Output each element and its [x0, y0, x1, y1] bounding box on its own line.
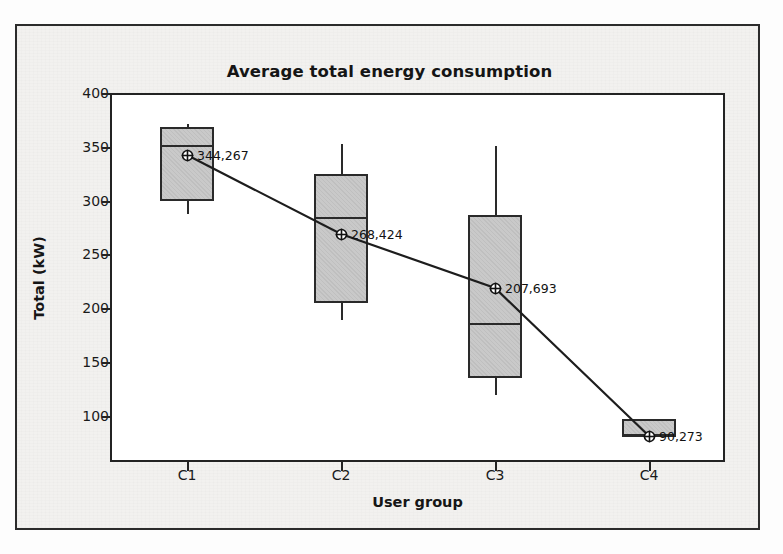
x-tick-label-c4: C4 [619, 467, 679, 483]
y-axis-label: Total (kW) [31, 236, 47, 320]
crossed-circle-icon [181, 149, 194, 162]
mean-value-label-c2: 268,424 [351, 227, 403, 242]
x-tick-label-c2: C2 [311, 467, 371, 483]
y-axis-tick-labels: 400 350 300 250 200 150 100 [47, 26, 109, 532]
y-tick-mark [102, 93, 110, 95]
y-tick-mark [102, 362, 110, 364]
y-tick-mark [102, 416, 110, 418]
figure-frame: Average total energy consumption Total (… [15, 24, 760, 530]
mean-value-label-c4: 90,273 [659, 429, 703, 444]
page-background: Average total energy consumption Total (… [0, 0, 783, 554]
x-axis-label: User group [110, 494, 725, 510]
chart-title: Average total energy consumption [17, 62, 762, 81]
y-tick-mark [102, 308, 110, 310]
mean-value-label-c1: 344,267 [197, 148, 249, 163]
x-tick-label-c1: C1 [157, 467, 217, 483]
crossed-circle-icon [643, 430, 656, 443]
y-tick-mark [102, 147, 110, 149]
mean-value-label-c3: 207,693 [505, 281, 557, 296]
crossed-circle-icon [489, 282, 502, 295]
x-tick-label-c3: C3 [465, 467, 525, 483]
crossed-circle-icon [335, 228, 348, 241]
y-tick-mark [102, 201, 110, 203]
y-tick-mark [102, 254, 110, 256]
